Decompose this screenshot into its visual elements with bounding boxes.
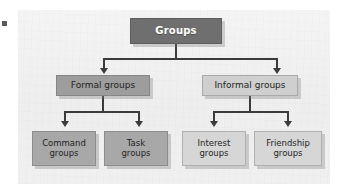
node-formal-groups-label: Formal groups xyxy=(71,80,135,90)
figure-canvas: Groups Formal groups Informal groups Com… xyxy=(0,0,342,192)
connector-formal-bus xyxy=(64,111,140,113)
node-command-groups: Command groups xyxy=(32,131,96,166)
node-informal-groups: Informal groups xyxy=(202,75,298,96)
node-groups: Groups xyxy=(130,18,222,44)
node-formal-groups: Formal groups xyxy=(56,75,150,96)
arrowhead-task xyxy=(135,121,143,127)
connector-root-stem xyxy=(175,44,177,59)
connector-root-bus xyxy=(103,58,278,60)
node-interest-groups: Interest groups xyxy=(182,131,246,166)
arrowhead-friendship xyxy=(284,121,292,127)
arrowhead-formal xyxy=(100,68,108,74)
node-task-groups-line2: groups xyxy=(121,149,150,159)
node-task-groups: Task groups xyxy=(104,131,168,166)
node-informal-groups-label: Informal groups xyxy=(214,80,285,90)
connector-informal-stem xyxy=(249,96,251,112)
node-command-groups-line2: groups xyxy=(42,149,86,159)
arrowhead-command xyxy=(61,121,69,127)
node-interest-groups-line2: groups xyxy=(198,149,231,159)
connector-formal-stem xyxy=(102,96,104,112)
node-friendship-groups-line2: groups xyxy=(266,149,310,159)
connector-informal-bus xyxy=(213,111,289,113)
edge-registration-mark xyxy=(2,21,7,26)
arrowhead-informal xyxy=(273,68,281,74)
arrowhead-interest xyxy=(210,121,218,127)
node-friendship-groups: Friendship groups xyxy=(254,131,322,166)
node-groups-label: Groups xyxy=(155,25,196,36)
